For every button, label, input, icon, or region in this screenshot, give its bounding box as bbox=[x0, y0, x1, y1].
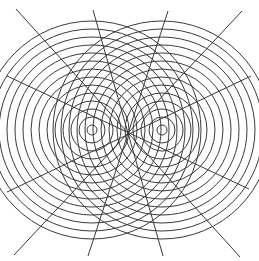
ring-source-1 bbox=[7, 45, 177, 215]
ring-source-1 bbox=[15, 53, 169, 207]
interference-diagram bbox=[0, 0, 259, 261]
ring-source-2 bbox=[125, 93, 199, 167]
ring-source-2 bbox=[77, 45, 247, 215]
radial-line bbox=[7, 76, 249, 189]
ring-source-2 bbox=[157, 125, 167, 135]
ring-source-2 bbox=[85, 53, 239, 207]
ring-source-2 bbox=[133, 101, 191, 159]
ring-source-1 bbox=[31, 69, 153, 191]
ring-source-2 bbox=[101, 69, 223, 191]
ring-source-1 bbox=[87, 125, 97, 135]
diagram-canvas bbox=[0, 0, 259, 261]
radial-lines bbox=[7, 9, 251, 257]
ring-source-2 bbox=[61, 29, 259, 231]
